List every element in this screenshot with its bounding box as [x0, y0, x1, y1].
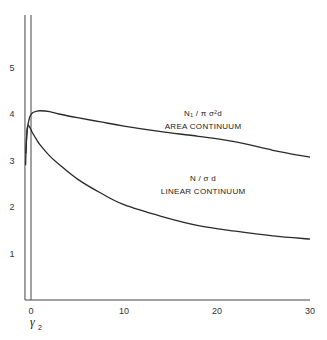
annotation-label-linear-continuum: LINEAR CONTINUUM	[161, 187, 246, 196]
axes	[25, 15, 310, 300]
series-line-linear-continuum	[26, 125, 310, 239]
chart: 010203012345 N₁ / π σ²dAREA CONTINUUMN /…	[0, 0, 327, 340]
y-tick-label: 2	[9, 202, 14, 212]
y-tick-label: 3	[9, 156, 14, 166]
y-tick-label: 5	[9, 63, 14, 73]
y-tick-label: 4	[9, 109, 14, 119]
annotation-formula-linear-continuum: N / σ d	[190, 174, 216, 183]
annotations: N₁ / π σ²dAREA CONTINUUMN / σ dLINEAR CO…	[161, 109, 246, 196]
x-tick-label: 20	[212, 306, 222, 316]
x-axis-label: γ	[30, 315, 35, 329]
x-tick-label: 10	[119, 306, 129, 316]
x-tick-label: 30	[305, 306, 315, 316]
annotation-label-area-continuum: AREA CONTINUUM	[165, 122, 242, 131]
series-line-area-continuum	[26, 111, 310, 158]
y-tick-label: 1	[9, 249, 14, 259]
annotation-formula-area-continuum: N₁ / π σ²d	[184, 109, 222, 118]
x-axis-label-subscript: 2	[38, 324, 42, 331]
